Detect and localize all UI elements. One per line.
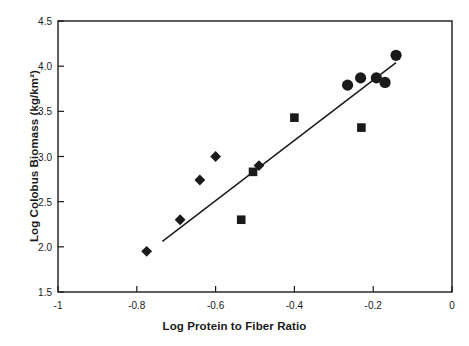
y-axis-title: Log Colobus Biomass (kg/km²): [28, 36, 40, 276]
data-point-circle: [390, 50, 401, 61]
x-tick-label: -0.2: [365, 300, 382, 311]
axes-frame: [58, 21, 452, 292]
data-point-diamond: [141, 246, 152, 257]
regression-line-path: [162, 63, 396, 242]
x-tick-label: 0: [449, 300, 455, 311]
data-markers: [141, 50, 401, 257]
x-axis-title: Log Protein to Fiber Ratio: [0, 320, 469, 332]
data-point-square: [249, 168, 258, 177]
x-tick-label: -1: [54, 300, 63, 311]
data-point-square: [357, 123, 366, 132]
data-point-circle: [355, 72, 366, 83]
y-axis-ticks: [58, 21, 64, 292]
scatter-plot-figure: -1-0.8-0.6-0.4-0.20 1.52.02.53.03.54.04.…: [0, 0, 469, 346]
y-tick-label: 4.5: [20, 16, 52, 27]
data-point-circle: [379, 77, 390, 88]
data-point-diamond: [210, 151, 221, 162]
data-point-square: [237, 215, 246, 224]
data-point-circle: [342, 80, 353, 91]
x-axis-ticks: [58, 286, 452, 292]
plot-canvas: [0, 0, 469, 346]
x-tick-label: -0.8: [128, 300, 145, 311]
data-point-diamond: [194, 175, 205, 186]
x-tick-label: -0.6: [207, 300, 224, 311]
y-tick-label: 1.5: [20, 287, 52, 298]
x-tick-label: -0.4: [286, 300, 303, 311]
data-point-diamond: [175, 214, 186, 225]
regression-line: [162, 63, 396, 242]
data-point-square: [290, 113, 299, 122]
